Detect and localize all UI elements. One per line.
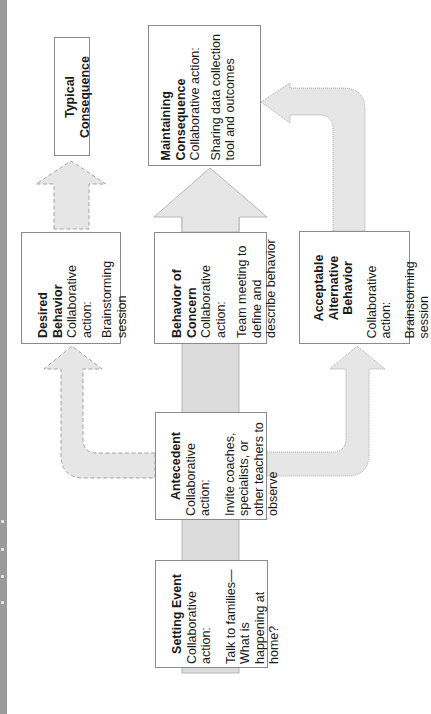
node-body: Invite coaches, specialists, or other te… [223, 416, 281, 516]
node-title: Maintaining Consequence [158, 31, 187, 160]
node-title: Antecedent [169, 416, 184, 516]
node-subtitle: Collaborative action: [184, 416, 213, 516]
node-body: Brainstorming session [100, 238, 129, 338]
node-body: Sharing data collection tool and outcome… [208, 31, 237, 160]
node-typical-consequence: Typical Consequence [54, 37, 90, 156]
node-behavior-of-concern: Behavior of Concern Collaborative action… [154, 232, 267, 344]
node-title: Setting Event [169, 564, 184, 664]
dotted-arrow-to-maintaining-consequence [261, 83, 365, 231]
node-antecedent: Antecedent Collaborative action: Invite … [155, 412, 267, 520]
dashed-arrow-to-desired-behavior [44, 346, 155, 478]
node-body: Team meeting to define and describe beha… [234, 238, 278, 338]
node-title: Desired Behavior [36, 238, 65, 338]
node-subtitle: Collaborative action: [198, 238, 227, 338]
solid-arrowhead-to-maintaining-consequence [154, 168, 267, 232]
node-acceptable-alternative-behavior: Acceptable Alternative Behavior Collabor… [299, 231, 410, 344]
node-title: Behavior of Concern [169, 238, 198, 338]
node-subtitle: Collaborative action: [187, 31, 202, 160]
node-desired-behavior: Desired Behavior Collaborative action: B… [21, 232, 121, 344]
node-body: Talk to families—What is happening at ho… [223, 564, 281, 664]
node-subtitle: Collaborative action: [184, 564, 213, 664]
node-subtitle: Collaborative action: [65, 238, 94, 338]
node-subtitle: Collaborative action: [364, 237, 393, 338]
node-title: Typical Consequence [63, 41, 92, 152]
dotted-arrow-to-acceptable-alternative-behavior [267, 346, 385, 476]
dashed-arrow-to-typical-consequence [36, 161, 106, 229]
node-title-line1: Acceptable [311, 237, 326, 338]
node-maintaining-consequence: Maintaining Consequence Collaborative ac… [148, 25, 261, 166]
node-setting-event: Setting Event Collaborative action: Talk… [155, 560, 268, 668]
node-body: Brainstorming session [402, 237, 431, 338]
node-title-line2: Alternative Behavior [326, 237, 355, 338]
